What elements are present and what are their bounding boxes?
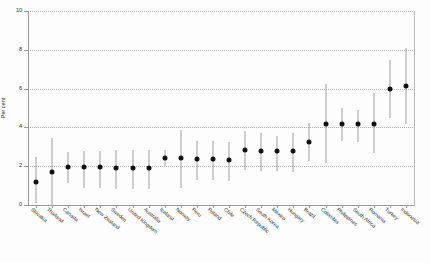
data-point-marker [291, 148, 296, 153]
data-point-marker [323, 121, 328, 126]
data-point-marker [275, 148, 280, 153]
gridline [28, 89, 415, 90]
data-point-marker [114, 166, 119, 171]
x-axis-category-label: Norway [174, 207, 191, 222]
data-point-marker [98, 165, 103, 170]
y-axis-tick-label: 6 [0, 86, 22, 92]
data-point-marker [355, 122, 360, 127]
data-point-marker [387, 86, 392, 91]
y-axis-tick-label: 2 [0, 163, 22, 169]
data-point-marker [162, 156, 167, 161]
y-axis-tick-label: 8 [0, 47, 22, 53]
data-point-marker [66, 165, 71, 170]
data-point-marker [82, 165, 87, 170]
x-axis-category-label: Indonesia [400, 207, 421, 225]
data-point-marker [403, 83, 408, 88]
x-axis-category-label: Canada [62, 207, 79, 223]
data-point-marker [130, 166, 135, 171]
data-point-marker [339, 121, 344, 126]
data-point-marker [227, 158, 232, 163]
data-point-marker [259, 148, 264, 153]
data-point-marker [194, 157, 199, 162]
data-point-marker [34, 179, 39, 184]
error-bar [277, 136, 278, 171]
y-axis-title: Per cent [0, 98, 6, 118]
plot-area [28, 11, 415, 205]
right-spine [414, 11, 415, 206]
data-point-marker [210, 157, 215, 162]
x-axis-category-label: Chile [223, 207, 235, 219]
data-point-marker [243, 147, 248, 152]
x-axis-line [28, 205, 415, 206]
y-axis-tick-label: 0 [0, 202, 22, 208]
y-axis-line [28, 11, 29, 206]
gridline [28, 50, 415, 51]
x-axis-category-label: Peru [191, 207, 203, 218]
x-axis-category-label: Israel [78, 207, 91, 219]
y-axis-tick-label: 10 [0, 8, 22, 14]
chart-figure: Per cent 0246810 SlovakiaThailandCanadaI… [0, 0, 431, 263]
data-point-marker [307, 139, 312, 144]
x-axis-category-labels: SlovakiaThailandCanadaIsraelNew ZealandS… [28, 207, 415, 263]
gridline [28, 11, 415, 12]
data-point-marker [178, 156, 183, 161]
y-axis-tick-label: 4 [0, 125, 22, 131]
x-axis-category-label: Poland [207, 207, 223, 221]
data-point-marker [371, 122, 376, 127]
data-point-marker [146, 166, 151, 171]
data-point-marker [50, 170, 55, 175]
